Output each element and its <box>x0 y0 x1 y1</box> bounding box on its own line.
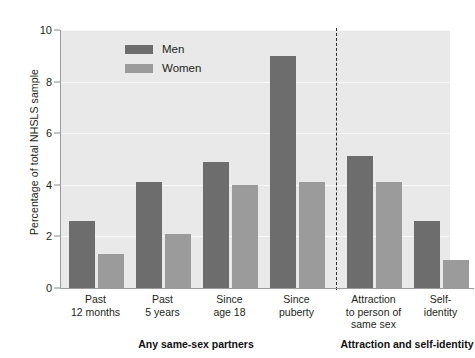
x-axis-category-labels: Past12 monthsPast5 yearsSinceage 18Since… <box>60 293 450 339</box>
legend-item-women: Women <box>125 62 201 74</box>
bar-men-3 <box>270 56 296 288</box>
legend-label-men: Men <box>162 43 184 55</box>
bar-women-4 <box>376 182 402 288</box>
legend-swatch-women-icon <box>125 64 153 73</box>
category-label-line: identity <box>397 306 475 319</box>
bar-women-0 <box>98 254 124 288</box>
gridline-10 <box>61 30 450 31</box>
bar-women-5 <box>443 260 469 288</box>
y-tick-label-10: 10 <box>40 25 52 36</box>
bar-women-2 <box>232 185 258 288</box>
chart-legend: Men Women <box>125 43 201 81</box>
legend-item-men: Men <box>125 43 201 55</box>
gridline-6 <box>61 133 450 134</box>
category-label-line: Since <box>253 293 341 306</box>
y-tick-label-0: 0 <box>46 283 52 294</box>
group-divider-line <box>336 28 337 290</box>
y-tick-label-6: 6 <box>46 128 52 139</box>
y-tick-label-4: 4 <box>46 179 52 190</box>
legend-label-women: Women <box>162 62 201 74</box>
y-tick-label-2: 2 <box>46 231 52 242</box>
bar-men-4 <box>347 156 373 288</box>
bar-men-1 <box>136 182 162 288</box>
bar-women-3 <box>299 182 325 288</box>
category-label-line: same sex <box>330 318 418 331</box>
y-axis-ticks: 1086420 <box>38 24 60 294</box>
category-label-5: Self-identity <box>397 293 475 318</box>
group-label-1: Attraction and self-identity <box>307 338 475 350</box>
bar-men-2 <box>203 162 229 288</box>
bar-men-0 <box>69 221 95 288</box>
category-label-3: Sincepuberty <box>253 293 341 318</box>
bar-men-5 <box>414 221 440 288</box>
chart-figure: Percentage of total NHSLS sample 1086420… <box>0 0 475 358</box>
y-tick-label-8: 8 <box>46 76 52 87</box>
gridline-8 <box>61 82 450 83</box>
category-label-line: Self- <box>397 293 475 306</box>
plot-area: Men Women <box>60 30 450 288</box>
category-label-line: puberty <box>253 306 341 319</box>
bar-women-1 <box>165 234 191 288</box>
group-label-0: Any same-sex partners <box>96 338 296 350</box>
legend-swatch-men-icon <box>125 45 153 54</box>
